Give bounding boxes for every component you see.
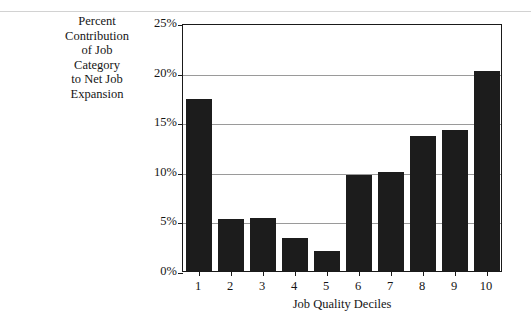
gridline-15% [183, 124, 501, 125]
gridline-20% [183, 75, 501, 76]
y-axis-title-line-5: Expansion [52, 87, 142, 102]
bar-decile-7 [378, 172, 404, 271]
y-axis-title-line-1: Contribution [52, 29, 142, 44]
page-top-rule [0, 11, 531, 12]
y-tick-label-5%: 5% [141, 214, 177, 229]
y-tickmark-25% [178, 25, 183, 26]
y-tickmark-15% [178, 124, 183, 125]
y-tickmark-5% [178, 223, 183, 224]
x-tickmark-6 [359, 271, 360, 276]
bar-decile-6 [346, 175, 372, 271]
x-tick-label-5: 5 [310, 279, 342, 294]
x-tick-label-7: 7 [374, 279, 406, 294]
bar-decile-4 [282, 238, 308, 271]
x-tickmark-5 [327, 271, 328, 276]
bar-decile-1 [186, 99, 212, 271]
x-tick-label-4: 4 [278, 279, 310, 294]
bar-decile-9 [442, 130, 468, 271]
x-tick-label-2: 2 [214, 279, 246, 294]
x-tick-label-10: 10 [470, 279, 502, 294]
x-tickmark-1 [199, 271, 200, 276]
y-axis-title-line-3: Category [52, 58, 142, 73]
y-tickmark-0% [178, 273, 183, 274]
x-tickmark-2 [231, 271, 232, 276]
figure-container: PercentContributionof JobCategoryto Net … [0, 0, 531, 325]
y-tick-label-15%: 15% [141, 115, 177, 130]
bar-decile-10 [474, 71, 500, 271]
y-axis-title-line-0: Percent [52, 14, 142, 29]
x-tickmark-7 [391, 271, 392, 276]
x-tickmark-10 [487, 271, 488, 276]
bar-decile-8 [410, 136, 436, 271]
y-tickmark-20% [178, 75, 183, 76]
x-tick-label-3: 3 [246, 279, 278, 294]
y-axis-title-line-4: to Net Job [52, 72, 142, 87]
bar-decile-5 [314, 251, 340, 271]
y-tick-label-25%: 25% [141, 16, 177, 31]
x-tick-label-9: 9 [438, 279, 470, 294]
x-axis-title: Job Quality Deciles [182, 297, 502, 312]
bar-decile-3 [250, 218, 276, 271]
y-tick-label-10%: 10% [141, 165, 177, 180]
y-axis-title: PercentContributionof JobCategoryto Net … [52, 14, 142, 102]
y-axis-title-line-2: of Job [52, 43, 142, 58]
bar-decile-2 [218, 219, 244, 271]
y-tickmark-10% [178, 174, 183, 175]
y-tick-label-20%: 20% [141, 66, 177, 81]
x-tick-label-6: 6 [342, 279, 374, 294]
x-tick-label-8: 8 [406, 279, 438, 294]
x-tick-label-1: 1 [182, 279, 214, 294]
plot-area [182, 24, 502, 272]
y-tick-label-0%: 0% [141, 264, 177, 279]
x-tickmark-8 [423, 271, 424, 276]
x-tickmark-3 [263, 271, 264, 276]
x-tickmark-9 [455, 271, 456, 276]
x-tickmark-4 [295, 271, 296, 276]
